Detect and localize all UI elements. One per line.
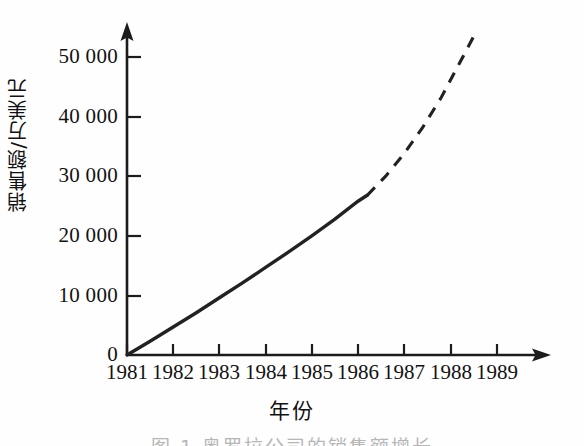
x-tick-label: 1989 xyxy=(474,362,520,383)
y-axis-title: 销售额/万美元 xyxy=(8,78,46,212)
x-tick-label: 1982 xyxy=(150,362,196,383)
x-tick-label: 1983 xyxy=(196,362,242,383)
y-tick-label: 20 000 xyxy=(30,225,118,246)
x-tick-label: 1984 xyxy=(243,362,289,383)
y-tick-marks xyxy=(127,57,141,296)
x-tick-label: 1988 xyxy=(428,362,474,383)
line-chart: 50 000 40 000 30 000 20 000 10 000 0 198… xyxy=(0,0,584,446)
y-tick-label: 50 000 xyxy=(30,46,118,67)
x-tick-marks xyxy=(127,344,497,355)
figure-caption: 图 1 奥罗拉公司的销售额增长 xyxy=(0,432,584,446)
series-line-forecast xyxy=(367,37,473,196)
x-tick-label: 1986 xyxy=(335,362,381,383)
x-tick-label: 1985 xyxy=(289,362,335,383)
figure-page: 50 000 40 000 30 000 20 000 10 000 0 198… xyxy=(0,0,584,446)
x-tick-label: 1981 xyxy=(104,362,150,383)
series-line-actual xyxy=(127,195,367,355)
y-tick-label: 10 000 xyxy=(30,285,118,306)
x-axis-title: 年份 xyxy=(0,394,584,424)
x-tick-label: 1987 xyxy=(381,362,427,383)
